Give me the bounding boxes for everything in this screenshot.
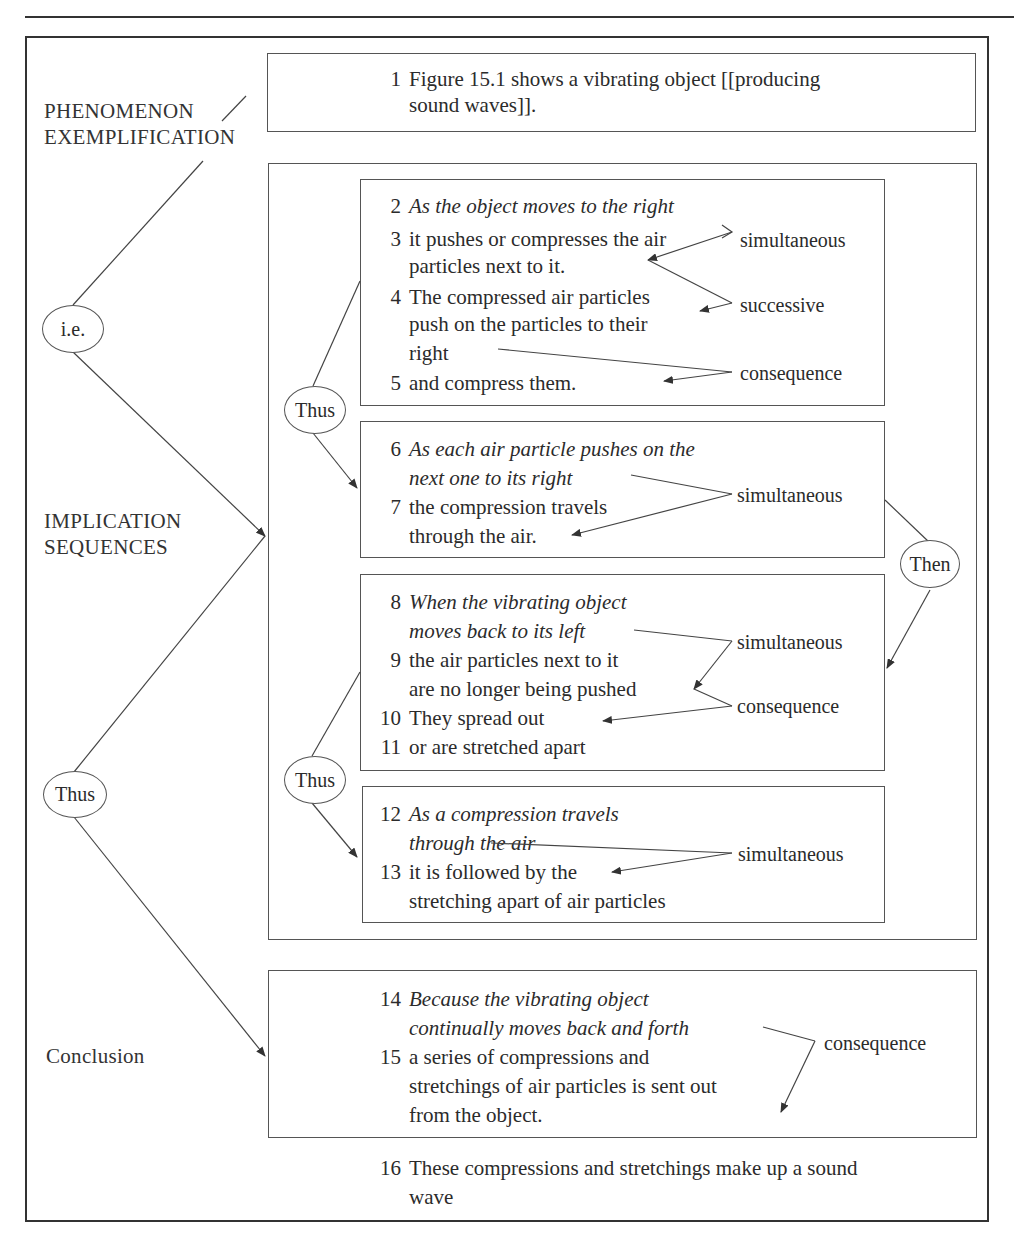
clause-text: stretching apart of air particles: [409, 889, 666, 913]
clause-text: particles next to it.: [409, 254, 565, 278]
clause-text: push on the particles to their: [409, 312, 648, 336]
clause-line: stretching apart of air particles: [374, 888, 666, 914]
clause-line: from the object.: [374, 1102, 543, 1128]
clause-text: from the object.: [409, 1103, 543, 1127]
relation-label: consequence: [740, 361, 842, 385]
relation-label: successive: [740, 293, 824, 317]
clause-line: wave: [374, 1184, 453, 1210]
clause-number: 12: [374, 801, 401, 827]
clause-number: 6: [385, 436, 401, 462]
clause-text: They spread out: [409, 706, 544, 730]
relation-label: simultaneous: [737, 630, 843, 654]
clause-line: 2As the object moves to the right: [385, 193, 674, 219]
clause-text: wave: [409, 1185, 453, 1209]
clause-number: 9: [385, 647, 401, 673]
clause-text: When the vibrating object: [409, 590, 627, 614]
clause-text: sound waves]].: [409, 93, 536, 117]
connector-thus-a: Thus: [284, 386, 346, 434]
relation-label: simultaneous: [737, 483, 843, 507]
clause-line: 3it pushes or compresses the air: [385, 226, 666, 252]
clause-line: are no longer being pushed: [385, 676, 636, 702]
stage-label-phenomenon: PHENOMENON EXEMPLIFICATION: [44, 98, 235, 150]
stage-label-line: SEQUENCES: [44, 534, 181, 560]
clause-number: 13: [374, 859, 401, 885]
clause-line: stretchings of air particles is sent out: [374, 1073, 717, 1099]
stage-label-line: EXEMPLIFICATION: [44, 124, 235, 150]
clause-text: it is followed by the: [409, 860, 577, 884]
clause-line: 7the compression travels: [385, 494, 607, 520]
clause-line: 16These compressions and stretchings mak…: [374, 1155, 858, 1181]
connector-then: Then: [900, 540, 960, 588]
stage-label-conclusion: Conclusion: [46, 1043, 145, 1069]
box-phenomenon: [267, 53, 976, 132]
clause-text: next one to its right: [409, 466, 572, 490]
relation-label: consequence: [824, 1031, 926, 1055]
clause-text: As a compression travels: [409, 802, 619, 826]
connector-ie: i.e.: [42, 305, 104, 353]
clause-text: the compression travels: [409, 495, 607, 519]
clause-line: 4The compressed air particles: [385, 284, 650, 310]
clause-line: 12As a compression travels: [374, 801, 619, 827]
clause-text: through the air.: [409, 524, 537, 548]
clause-text: moves back to its left: [409, 619, 585, 643]
clause-line: 15a series of compressions and: [374, 1044, 649, 1070]
clause-number: 4: [385, 284, 401, 310]
header-rule: [25, 16, 1014, 18]
clause-line: 10They spread out: [374, 705, 544, 731]
clause-number: 11: [374, 734, 401, 760]
clause-line: 8When the vibrating object: [385, 589, 627, 615]
clause-line: continually moves back and forth: [374, 1015, 689, 1041]
clause-line: 14Because the vibrating object: [374, 986, 649, 1012]
clause-text: it pushes or compresses the air: [409, 227, 666, 251]
clause-text: right: [409, 341, 449, 365]
stage-label-implication: IMPLICATION SEQUENCES: [44, 508, 181, 560]
clause-number: 16: [374, 1155, 401, 1181]
relation-label: consequence: [737, 694, 839, 718]
clause-line: particles next to it.: [385, 253, 565, 279]
clause-number: 1: [385, 66, 401, 92]
clause-line: moves back to its left: [385, 618, 585, 644]
clause-text: a series of compressions and: [409, 1045, 649, 1069]
clause-number: 3: [385, 226, 401, 252]
clause-text: Because the vibrating object: [409, 987, 649, 1011]
connector-thus-b: Thus: [284, 756, 346, 804]
clause-text: continually moves back and forth: [409, 1016, 689, 1040]
clause-line: 13it is followed by the: [374, 859, 577, 885]
clause-line: sound waves]].: [385, 92, 536, 118]
clause-text: Figure 15.1 shows a vibrating object [[p…: [409, 67, 820, 91]
clause-text: are no longer being pushed: [409, 677, 636, 701]
clause-text: through the air: [409, 831, 535, 855]
clause-text: As the object moves to the right: [409, 194, 674, 218]
connector-thus-main: Thus: [43, 771, 107, 818]
relation-label: simultaneous: [738, 842, 844, 866]
clause-number: 14: [374, 986, 401, 1012]
clause-number: 7: [385, 494, 401, 520]
clause-line: 1Figure 15.1 shows a vibrating object [[…: [385, 66, 820, 92]
clause-text: As each air particle pushes on the: [409, 437, 695, 461]
clause-number: 2: [385, 193, 401, 219]
clause-text: or are stretched apart: [409, 735, 586, 759]
clause-line: 6As each air particle pushes on the: [385, 436, 695, 462]
stage-label-line: PHENOMENON: [44, 98, 235, 124]
clause-line: through the air.: [385, 523, 537, 549]
clause-number: 10: [374, 705, 401, 731]
clause-number: 8: [385, 589, 401, 615]
clause-line: right: [385, 340, 449, 366]
clause-line: push on the particles to their: [385, 311, 648, 337]
clause-line: through the air: [374, 830, 535, 856]
clause-number: 15: [374, 1044, 401, 1070]
clause-line: 11or are stretched apart: [374, 734, 586, 760]
clause-number: 5: [385, 370, 401, 396]
stage-label-line: IMPLICATION: [44, 508, 181, 534]
clause-line: 9the air particles next to it: [385, 647, 618, 673]
clause-line: next one to its right: [385, 465, 572, 491]
clause-text: and compress them.: [409, 371, 576, 395]
clause-text: the air particles next to it: [409, 648, 618, 672]
clause-text: The compressed air particles: [409, 285, 650, 309]
clause-line: 5and compress them.: [385, 370, 576, 396]
relation-label: simultaneous: [740, 228, 846, 252]
clause-text: stretchings of air particles is sent out: [409, 1074, 717, 1098]
clause-text: These compressions and stretchings make …: [409, 1156, 858, 1180]
